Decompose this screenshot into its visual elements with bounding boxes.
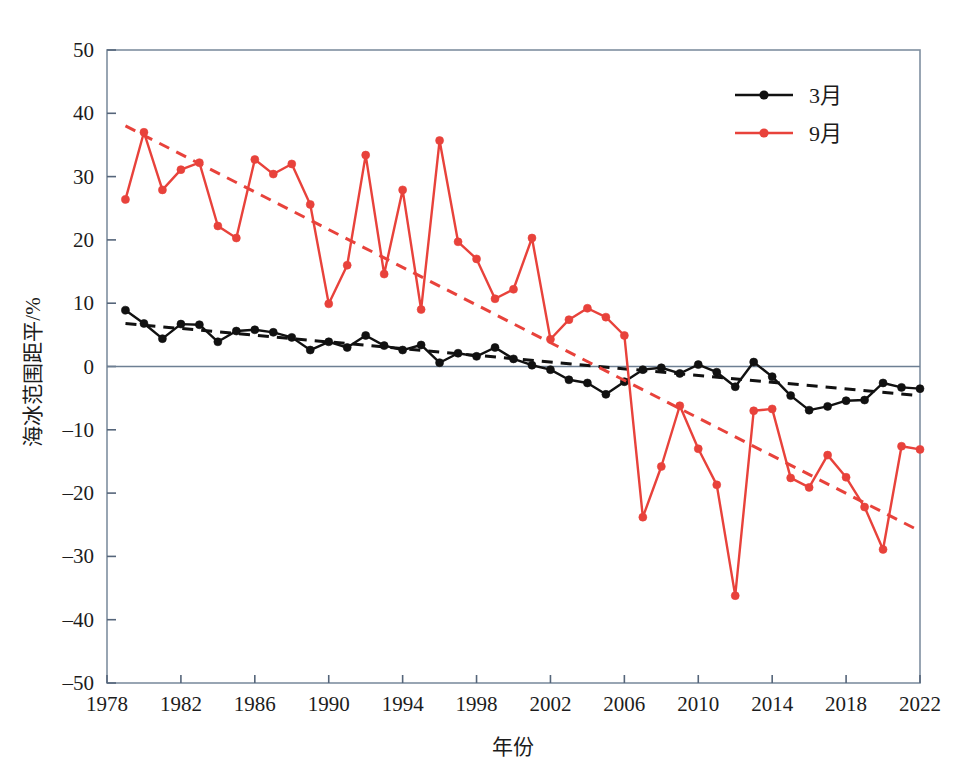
x-tick-label: 1990 [308,692,350,716]
data-point [713,481,721,489]
data-point [436,359,444,367]
data-point [325,300,333,308]
data-point [528,361,536,369]
data-point [861,503,869,511]
x-tick-label: 1978 [86,692,128,716]
x-tick-label: 2010 [677,692,719,716]
y-tick-label: 40 [73,101,94,125]
y-tick-label: –20 [62,481,95,505]
y-tick-label: 30 [73,165,94,189]
sea-ice-anomaly-line-chart: 50403020100–10–20–30–40–50 1978198219861… [0,0,953,765]
data-point [916,445,924,453]
data-point [805,483,813,491]
y-tick-label: 20 [73,228,94,252]
data-point [177,166,185,174]
data-point [583,379,591,387]
x-tick-label: 1982 [160,692,202,716]
data-point [546,335,554,343]
y-tick-label: 50 [73,38,94,62]
data-point [713,368,721,376]
data-point [898,383,906,391]
data-point [861,396,869,404]
y-axis-title: 海冰范围距平/% [21,297,45,446]
data-point [731,592,739,600]
y-tick-label: 0 [84,355,95,379]
x-tick-label: 1994 [382,692,425,716]
x-tick-label: 2006 [603,692,645,716]
data-point [195,321,203,329]
plot-background [0,0,953,765]
x-axis-title: 年份 [492,735,534,759]
data-point [177,320,185,328]
data-point [473,255,481,263]
data-point [454,238,462,246]
data-point [842,473,850,481]
data-point [214,222,222,230]
data-point [639,366,647,374]
y-tick-label: –40 [62,608,95,632]
y-tick-label: 10 [73,291,94,315]
data-point [158,186,166,194]
data-point [510,355,518,363]
data-point [805,406,813,414]
x-tick-label: 2014 [751,692,794,716]
legend-label: 3月 [809,83,842,108]
data-point [694,361,702,369]
data-point [657,463,665,471]
data-point [565,316,573,324]
data-point [657,364,665,372]
data-point [306,346,314,354]
data-point [583,304,591,312]
data-point [787,392,795,400]
data-point [731,383,739,391]
data-point [306,200,314,208]
data-point [787,474,795,482]
x-tick-label: 1998 [456,692,498,716]
legend-marker [759,128,768,137]
data-point [602,390,610,398]
data-point [251,156,259,164]
data-point [676,402,684,410]
data-point [232,327,240,335]
x-tick-label: 2018 [825,692,867,716]
data-point [842,397,850,405]
y-tick-label: –10 [62,418,95,442]
data-point [898,442,906,450]
data-point [140,319,148,327]
data-point [491,344,499,352]
x-tick-label: 2002 [529,692,571,716]
data-point [380,270,388,278]
data-point [565,376,573,384]
data-point [288,160,296,168]
x-tick-label: 1986 [234,692,276,716]
data-point [214,338,222,346]
data-point [528,234,536,242]
data-point [824,451,832,459]
data-point [491,295,499,303]
data-point [436,137,444,145]
data-point [288,333,296,341]
data-point [694,445,702,453]
x-tick-label: 2022 [899,692,941,716]
data-point [325,338,333,346]
data-point [232,234,240,242]
data-point [879,379,887,387]
data-point [399,346,407,354]
data-point [473,352,481,360]
data-point [768,373,776,381]
data-point [768,405,776,413]
data-point [916,385,924,393]
y-tick-label: –30 [62,544,95,568]
legend-marker [759,90,768,99]
data-point [602,313,610,321]
data-point [269,170,277,178]
data-point [269,328,277,336]
data-point [750,407,758,415]
data-point [620,331,628,339]
data-point [121,195,129,203]
data-point [454,349,462,357]
data-point [380,342,388,350]
data-point [195,159,203,167]
data-point [639,513,647,521]
data-point [824,402,832,410]
